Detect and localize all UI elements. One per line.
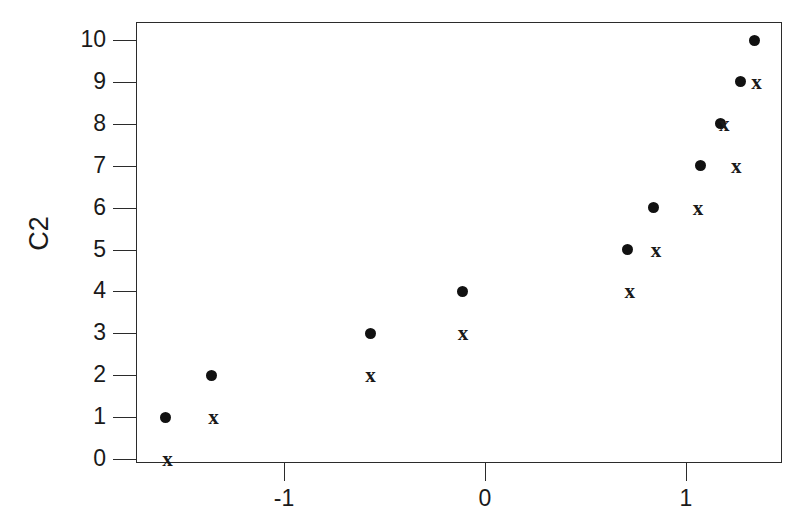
data-point-x-marker: x	[727, 155, 745, 177]
y-axis-tick-label: 9	[46, 70, 106, 93]
data-point-circle-marker	[695, 160, 706, 171]
data-point-circle-marker	[160, 412, 171, 423]
data-point-x-marker: x	[747, 71, 765, 93]
y-axis-tick	[113, 333, 136, 334]
y-axis-tick	[113, 208, 136, 209]
y-axis-tick-label: 8	[46, 112, 106, 135]
data-point-x-marker: x	[454, 322, 472, 344]
y-axis-tick-label: 7	[46, 154, 106, 177]
x-axis-tick-label: -1	[254, 487, 314, 510]
y-axis-tick-label: 6	[46, 196, 106, 219]
data-point-x-marker: x	[715, 113, 733, 135]
y-axis-tick	[113, 417, 136, 418]
x-axis-tick	[485, 463, 486, 481]
y-axis-tick-label: 4	[46, 279, 106, 302]
data-point-circle-marker	[206, 370, 217, 381]
y-axis-tick-label: 0	[46, 447, 106, 470]
y-axis-tick	[113, 250, 136, 251]
data-point-x-marker: x	[621, 280, 639, 302]
y-axis-tick	[113, 124, 136, 125]
data-point-circle-marker	[365, 328, 376, 339]
y-axis-tick	[113, 459, 136, 460]
y-axis-tick-label: 3	[46, 321, 106, 344]
y-axis-tick-label: 1	[46, 405, 106, 428]
scatter-plot-figure: C2 012345678910 -101 xxxxxxxxxx	[0, 0, 803, 532]
data-point-x-marker: x	[647, 239, 665, 261]
data-point-x-marker: x	[361, 364, 379, 386]
x-axis-tick	[284, 463, 285, 481]
y-axis-tick	[113, 40, 136, 41]
y-axis-tick	[113, 166, 136, 167]
y-axis-tick-label: 2	[46, 363, 106, 386]
y-axis-tick	[113, 82, 136, 83]
x-axis-tick-label: 1	[656, 487, 716, 510]
y-axis-tick	[113, 291, 136, 292]
x-axis-tick	[686, 463, 687, 481]
data-point-x-marker: x	[158, 448, 176, 470]
data-point-x-marker: x	[205, 406, 223, 428]
y-axis-tick-label: 5	[46, 238, 106, 261]
plot-area-frame	[136, 22, 782, 463]
data-point-circle-marker	[749, 35, 760, 46]
data-point-x-marker: x	[689, 197, 707, 219]
y-axis-tick	[113, 375, 136, 376]
x-axis-tick-label: 0	[455, 487, 515, 510]
y-axis-tick-label: 10	[46, 28, 106, 51]
